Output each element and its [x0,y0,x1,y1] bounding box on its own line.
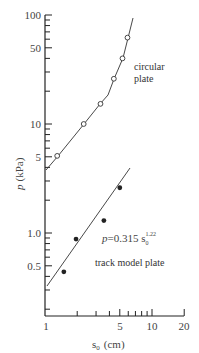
data-point [61,269,66,274]
xtick-5: 5 [117,320,123,332]
xtick-1: 1 [43,320,49,332]
xtick-20: 20 [179,320,191,332]
chart: 100 50 10 5 1.0 0.5 1 5 10 20 s0(cm) p(k… [0,0,199,353]
xtick-10: 10 [147,320,159,332]
data-point [111,76,116,81]
data-point [81,122,86,127]
data-point [55,153,60,158]
data-point [120,56,125,61]
fit-equation: p=0.315 s01.22 [101,231,156,246]
ytick-0.5: 0.5 [27,260,41,272]
data-point [98,101,103,106]
data-point [101,218,106,223]
track-plate-fit-line [47,168,130,286]
svg-text:p=0.315 s01.22: p=0.315 s01.22 [101,231,156,246]
ytick-5: 5 [36,151,42,163]
x-axis-label: s0(cm) [92,338,125,352]
ytick-1: 1.0 [27,227,41,239]
circular-plate-line [46,18,133,170]
y-ticks [45,15,52,309]
ytick-10: 10 [30,118,42,130]
ytick-50: 50 [30,42,42,54]
ytick-100: 100 [25,9,42,21]
svg-text:p(kPa): p(kPa) [13,157,26,191]
data-point [117,185,122,190]
circular-plate-label: circular [134,61,165,72]
svg-text:s0(cm): s0(cm) [92,338,125,352]
track-model-plate-label: track model plate [95,257,165,268]
y-axis-label: p(kPa) [13,157,26,191]
x-ticks [77,309,184,316]
data-point [125,35,130,40]
circular-plate-label-2: plate [134,73,154,84]
data-point [74,237,79,242]
